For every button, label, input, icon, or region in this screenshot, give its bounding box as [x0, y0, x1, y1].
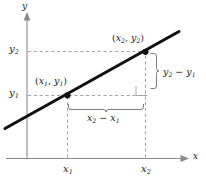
p1-close: )	[63, 75, 67, 86]
rise-operator: −	[175, 66, 183, 77]
run-brace	[69, 104, 144, 112]
rise-brace	[151, 54, 160, 89]
y-axis-arrowhead	[24, 12, 31, 21]
right-angle-icon	[136, 86, 146, 96]
x1-sub: 1	[69, 168, 73, 176]
point-marker-2	[142, 49, 148, 55]
x2-sub: 2	[147, 168, 151, 176]
axes-group	[6, 12, 189, 162]
p2-sep: ,	[125, 32, 128, 43]
run-label: x2 − x1	[87, 113, 120, 124]
y1-sub: 1	[15, 92, 19, 100]
run-a-sub: 2	[92, 117, 96, 124]
slope-diagram-figure: y x y2 y1 x1 x2 (x1, y1) (x2, y2) y2 − y…	[0, 0, 206, 192]
x-axis-label: x	[193, 152, 198, 161]
rise-a-sub: 2	[168, 71, 172, 78]
x-tick-label-x2: x2	[141, 164, 151, 175]
point-1-coordinate-label: (x1, y1)	[35, 76, 67, 87]
p2-close: )	[140, 32, 144, 43]
point-2-coordinate-label: (x2, y2)	[112, 33, 144, 44]
y2-sub: 2	[15, 48, 19, 56]
diagram-canvas	[0, 0, 206, 192]
rise-label: y2 − y1	[163, 67, 196, 78]
run-operator: −	[99, 112, 107, 123]
y-tick-label-y2: y2	[9, 44, 19, 55]
x-axis-arrowhead	[181, 155, 190, 162]
x-tick-label-x1: x1	[63, 164, 73, 175]
run-b-sub: 1	[116, 117, 120, 124]
y-axis-label: y	[22, 2, 27, 11]
rise-b-sub: 1	[192, 71, 196, 78]
p1-sep: ,	[48, 75, 51, 86]
y-tick-label-y1: y1	[9, 88, 19, 99]
point-marker-1	[64, 92, 70, 98]
